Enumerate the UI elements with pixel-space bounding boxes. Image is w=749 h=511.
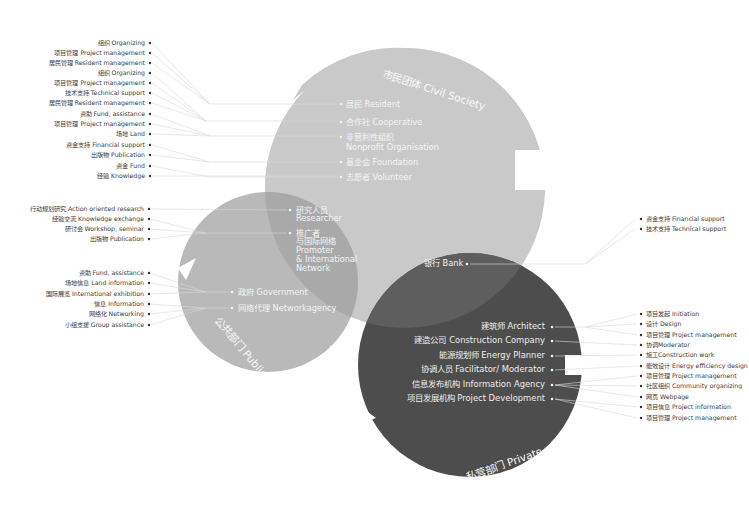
member-bank: 银行 Bank: [424, 258, 463, 268]
role-item: 项目管理 Project management: [54, 49, 145, 57]
role-item: 网页 Webpage: [646, 393, 689, 401]
role-item: 资金支持 Financial support: [646, 215, 725, 223]
role-item: 能效设计 Energy efficiency design: [646, 362, 748, 370]
role-item: 项目管理 Project management: [646, 414, 737, 422]
role-item: 组织 Organizing: [98, 69, 146, 77]
role-item: 经验交流 Knowledge exchange: [52, 215, 144, 223]
role-item: 项目发起 Initiation: [646, 310, 699, 318]
role-item: 资金支持 Financial support: [66, 141, 145, 149]
member-cooperative: 合作社 Cooperative: [346, 117, 422, 127]
role-item: 项目管理 Project management: [646, 372, 737, 380]
member-promoter-en3: Network: [296, 263, 330, 273]
role-item: 项目管理 Project management: [646, 331, 737, 339]
member-architect: 建筑师 Architect: [481, 321, 546, 331]
bank-roles: 资金支持 Financial support 技术支持 Technical su…: [640, 215, 727, 233]
role-item: 场地信息 Land information: [65, 279, 144, 287]
role-item: 施工Construction work: [646, 351, 715, 359]
stakeholder-venn-diagram: 市民团体 Civil Society 公共部门 Public 私营部门 Priv…: [0, 0, 749, 511]
role-item: 社区组织 Community organizing: [646, 382, 742, 390]
role-item: 场地 Land: [116, 130, 145, 138]
role-item: 出版物 Publication: [91, 151, 145, 159]
member-researcher-en: Researcher: [296, 213, 343, 223]
member-information-agency: 信息发布机构 Information Agency: [412, 379, 545, 389]
role-item: 研讨会 Workshop, seminar: [65, 225, 145, 233]
member-resident: 居民 Resident: [346, 99, 401, 109]
role-item: 资助 Fund, assistance: [79, 269, 145, 277]
role-item: 小组支援 Group assistance: [65, 321, 144, 329]
member-energy-planner: 能源规划师 Energy Planner: [439, 350, 546, 360]
member-construction-company: 建造公司 Construction Company: [414, 335, 545, 345]
role-item: 资助 Fund, assistance: [80, 110, 146, 118]
role-item: 设计 Design: [646, 320, 681, 328]
role-item: 居民管理 Resident management: [49, 59, 146, 67]
role-item: 项目信息 Project information: [646, 403, 731, 411]
bank-member: 银行 Bank: [424, 258, 468, 268]
member-foundation: 基金会 Foundation: [346, 157, 418, 167]
member-nonprofit-en: Nonprofit Organisation: [346, 142, 439, 152]
private-roles: 项目发起 Initiation 设计 Design 项目管理 Project m…: [640, 310, 748, 422]
role-item: 居民管理 Resident management: [49, 99, 146, 107]
role-item: 组织 Organizing: [98, 39, 146, 47]
role-item: 项目管理 Project management: [54, 120, 145, 128]
member-government: 政府 Government: [238, 287, 308, 297]
member-nonprofit-zh: 非营利性组织: [346, 132, 394, 142]
member-volunteer: 志愿者 Volunteer: [346, 172, 413, 182]
public-overlap-roles: 行动规划研究 Action oriented research 经验交流 Kno…: [30, 205, 150, 243]
member-project-development: 项目发展机构 Project Development: [407, 393, 546, 403]
role-item: 出版物 Publication: [90, 235, 144, 243]
role-item: 国际展览 International exhibition: [46, 290, 144, 298]
role-item: 项目管理 Project management: [54, 79, 145, 87]
role-item: 技术支持 Technical support: [646, 225, 727, 233]
role-item: 协调Moderator: [646, 341, 690, 349]
member-facilitator: 协调人员 Facilitator/ Moderator: [421, 364, 546, 374]
role-item: 信息 Information: [94, 300, 144, 308]
role-item: 资金 Fund: [116, 162, 145, 170]
member-networkagency: 网络代理 Networkagency: [238, 303, 337, 313]
role-item: 网络化 Networking: [89, 310, 144, 318]
role-item: 行动规划研究 Action oriented research: [30, 205, 144, 213]
public-roles: 资助 Fund, assistance 场地信息 Land informatio…: [46, 269, 150, 329]
role-item: 经验 Knowledge: [97, 172, 145, 180]
civil-society-roles: 组织 Organizing 项目管理 Project management 居民…: [49, 39, 151, 180]
role-item: 技术支持 Technical support: [65, 89, 146, 97]
